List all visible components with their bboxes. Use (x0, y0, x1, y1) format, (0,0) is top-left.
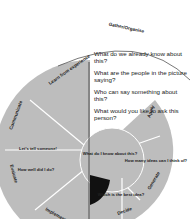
title-gather: Gather/Organise (108, 22, 145, 34)
question-4: What would you like to ask this person? (94, 107, 192, 121)
seg-evaluate: How well did I do? (18, 167, 55, 172)
center-label: What do I know about this? (83, 151, 138, 156)
question-3: Who can say something about this? (94, 88, 192, 102)
seg-communicate: Let's tell someone! (19, 146, 57, 151)
seg-generate: How many ideas can I think of? (125, 158, 188, 163)
seg-decide: Which is the best idea? (98, 192, 145, 197)
question-1: What do we already know about this? (94, 50, 192, 64)
question-2: What are the people in the picture sayin… (94, 69, 192, 83)
